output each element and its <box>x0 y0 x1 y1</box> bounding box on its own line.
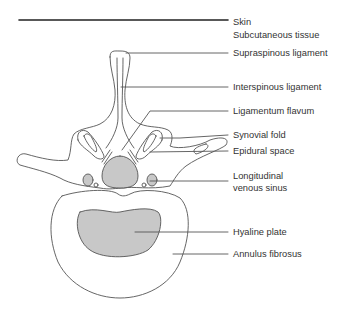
left-articular-process <box>78 130 104 159</box>
dural-sac <box>102 156 138 188</box>
label-longitudinal: Longitudinal <box>233 170 283 182</box>
label-interspinous-ligament: Interspinous ligament <box>233 81 321 93</box>
label-skin: Skin <box>233 16 251 28</box>
label-subcutaneous-tissue: Subcutaneous tissue <box>233 29 319 41</box>
right-articular-process <box>136 130 162 159</box>
left-small-vessel <box>94 183 98 187</box>
left-venous-sinus <box>83 174 93 186</box>
label-venous-sinus: venous sinus <box>233 182 287 194</box>
hyaline-plate <box>77 209 161 257</box>
label-ligamentum-flavum: Ligamentum flavum <box>233 105 314 117</box>
label-epidural-space: Epidural space <box>233 145 295 157</box>
right-venous-sinus <box>147 174 157 186</box>
label-annulus-fibrosus: Annulus fibrosus <box>233 248 302 260</box>
right-small-vessel <box>142 183 146 187</box>
label-supraspinous-ligament: Supraspinous ligament <box>233 47 328 59</box>
label-synovial-fold: Synovial fold <box>233 129 286 141</box>
label-hyaline-plate: Hyaline plate <box>233 226 287 238</box>
